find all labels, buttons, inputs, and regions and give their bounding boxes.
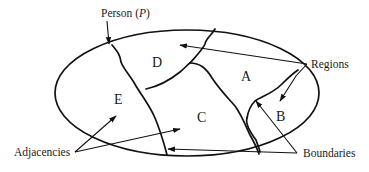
region-label-c: C xyxy=(197,110,206,125)
regions-arrow-d xyxy=(180,45,307,64)
adjacencies-callout-label: Adjacencies xyxy=(14,146,71,159)
regions-callout-label: Regions xyxy=(311,58,349,71)
boundary-a-b xyxy=(247,70,298,118)
person-arrow xyxy=(107,21,109,44)
territory-diagram: D A E C B Person (P) Regions Adjacencies… xyxy=(0,0,369,172)
adjacencies-arrow-e xyxy=(75,116,116,152)
boundary-d-a xyxy=(190,29,215,63)
region-label-e: E xyxy=(114,92,123,107)
person-callout-label: Person (P) xyxy=(101,7,150,20)
adjacencies-arrow-c xyxy=(75,129,180,152)
region-label-a: A xyxy=(241,69,252,84)
boundaries-callout-label: Boundaries xyxy=(303,147,356,159)
region-label-b: B xyxy=(276,109,285,124)
region-label-d: D xyxy=(152,55,162,70)
outer-boundary-ellipse xyxy=(55,30,319,156)
